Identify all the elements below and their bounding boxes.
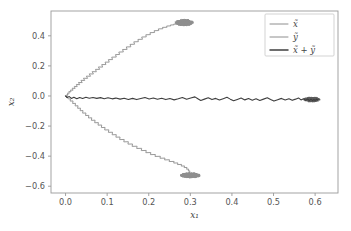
trace-terminal-cluster <box>304 97 320 102</box>
x-tick-label: 0.5 <box>267 197 280 207</box>
y-tick-label: −0.2 <box>25 121 45 131</box>
y-tick-label: 0.2 <box>32 61 45 71</box>
x-tick-label: 0.3 <box>184 197 197 207</box>
y-axis-title: x₂ <box>6 97 16 106</box>
x-axis-title: x₁ <box>190 210 199 220</box>
legend-label-2[interactable]: x̃ + ỹ <box>293 45 315 55</box>
scatter-plot: 0.00.10.20.30.40.50.6 0.40.20.0−0.2−0.4−… <box>0 0 351 231</box>
legend[interactable]: x̃ỹx̃ + ỹ <box>265 14 334 56</box>
x-tick-label: 0.4 <box>225 197 238 207</box>
x-tick-label: 0.2 <box>142 197 155 207</box>
y-tick-label: −0.6 <box>25 181 45 191</box>
y-tick-label: 0.0 <box>32 91 45 101</box>
legend-label-1[interactable]: ỹ <box>292 32 298 42</box>
x-axis-ticks: 0.00.10.20.30.40.50.6 <box>59 193 322 207</box>
x-tick-label: 0.6 <box>309 197 322 207</box>
y-axis-ticks: 0.40.20.0−0.2−0.4−0.6 <box>25 31 51 191</box>
y-axis-title-text: x₂ <box>6 97 16 106</box>
legend-label-0[interactable]: x̃ <box>293 19 298 29</box>
y-tick-label: −0.4 <box>25 151 45 161</box>
x-axis-title-text: x₁ <box>190 210 199 220</box>
x-tick-label: 0.0 <box>59 197 72 207</box>
x-tick-label: 0.1 <box>101 197 114 207</box>
y-tick-label: 0.4 <box>32 31 45 41</box>
figure-canvas: 0.00.10.20.30.40.50.6 0.40.20.0−0.2−0.4−… <box>0 0 351 231</box>
